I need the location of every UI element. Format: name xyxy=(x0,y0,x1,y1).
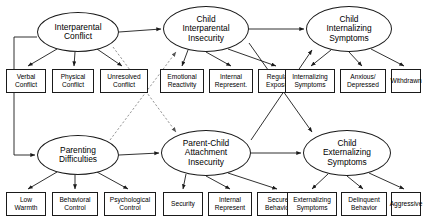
observed-label: Anxious/Depressed xyxy=(346,73,380,88)
observed-behavioral-control[interactable]: BehavioralControl xyxy=(52,192,98,216)
observed-low-warmth[interactable]: LowWarmth xyxy=(6,192,46,216)
observed-security[interactable]: Security xyxy=(163,192,203,216)
latent-label: Parent-ChildAttachmentInsecurity xyxy=(180,139,233,167)
observed-label: Security xyxy=(170,200,196,208)
observed-verbal-conflict[interactable]: VerbalConflict xyxy=(6,69,46,93)
observed-label: BehavioralControl xyxy=(58,196,91,211)
observed-unresolved-conflict[interactable]: UnresolvedConflict xyxy=(100,69,148,93)
latent-child-interparental-insecurity[interactable]: ChildInterparentalInsecurity xyxy=(163,6,249,52)
observed-label: InternalRepresent. xyxy=(214,73,248,88)
latent-child-externalizing-symptoms[interactable]: ChildExternalizingSymptoms xyxy=(303,130,391,176)
latent-parent-child-attachment-insecurity[interactable]: Parent-ChildAttachmentInsecurity xyxy=(161,130,251,176)
latent-label: InterparentalConflict xyxy=(51,23,104,42)
observed-anxious-depressed[interactable]: Anxious/Depressed xyxy=(340,69,386,93)
observed-delinquent-behavior[interactable]: DelinquentBehavior xyxy=(341,192,387,216)
observed-internal-represent-insecurity[interactable]: InternalRepresent. xyxy=(209,69,253,93)
latent-child-internalizing-symptoms[interactable]: ChildInternalizingSymptoms xyxy=(306,6,392,52)
observed-emotional-reactivity[interactable]: EmotionalReactivity xyxy=(160,69,204,93)
observed-internalizing-symptoms[interactable]: InternalizingSymptoms xyxy=(285,69,335,93)
observed-label: Aggressive xyxy=(389,200,424,208)
observed-psychological-control[interactable]: PsychologicalControl xyxy=(104,192,156,216)
latent-parenting-difficulties[interactable]: ParentingDifficulties xyxy=(37,135,119,175)
latent-label: ChildInterparentalInsecurity xyxy=(179,15,232,43)
observed-withdrawn[interactable]: Withdrawn xyxy=(391,69,421,93)
observed-label: PhysicalConflict xyxy=(60,73,87,88)
latent-interparental-conflict[interactable]: InterparentalConflict xyxy=(37,12,119,52)
nodes-layer: InterparentalConflict ChildInterparental… xyxy=(0,0,424,222)
observed-physical-conflict[interactable]: PhysicalConflict xyxy=(52,69,94,93)
path-diagram: InterparentalConflict ChildInterparental… xyxy=(0,0,424,222)
observed-label: UnresolvedConflict xyxy=(106,73,141,88)
observed-label: VerbalConflict xyxy=(14,73,38,88)
observed-externalizing-symptoms[interactable]: ExternalizingSymptoms xyxy=(287,192,337,216)
latent-label: ParentingDifficulties xyxy=(56,146,100,165)
observed-internal-represent-attachment[interactable]: InternalRepresent xyxy=(208,192,252,216)
observed-label: Withdrawn xyxy=(389,77,422,85)
latent-label: ChildInternalizingSymptoms xyxy=(323,15,374,43)
observed-label: EmotionalReactivity xyxy=(166,73,197,88)
observed-aggressive[interactable]: Aggressive xyxy=(391,192,421,216)
observed-label: LowWarmth xyxy=(14,196,39,211)
observed-label: DelinquentBehavior xyxy=(347,196,381,211)
latent-label: ChildExternalizingSymptoms xyxy=(320,139,374,167)
observed-label: PsychologicalControl xyxy=(109,196,151,211)
observed-label: ExternalizingSymptoms xyxy=(292,196,332,211)
observed-label: InternalRepresent xyxy=(214,196,246,211)
observed-label: InternalizingSymptoms xyxy=(291,73,329,88)
